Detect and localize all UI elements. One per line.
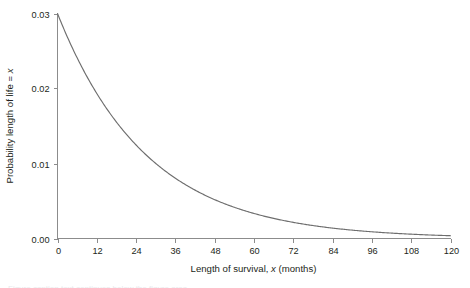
y-tick-label: 0.02 (32, 84, 50, 94)
x-tick-group: 01224364860728496108120 (56, 239, 459, 256)
x-tick-label: 96 (367, 246, 377, 256)
axes-group (58, 14, 451, 239)
x-tick-label: 12 (92, 246, 102, 256)
figure-container: 0.000.010.020.03 01224364860728496108120… (0, 0, 470, 288)
x-tick-label: 60 (249, 246, 259, 256)
probability-density-curve (58, 14, 451, 236)
x-tick-label: 84 (328, 246, 338, 256)
x-tick-label: 108 (404, 246, 419, 256)
x-tick-label: 0 (56, 246, 61, 256)
y-tick-label: 0.00 (32, 235, 50, 245)
cut-off-caption: Figure caption text continues below the … (8, 284, 198, 288)
y-tick-group: 0.000.010.020.03 (32, 10, 58, 245)
y-axis-title: Probability length of life = x (4, 67, 15, 183)
x-tick-label: 36 (170, 246, 180, 256)
x-tick-label: 72 (288, 246, 298, 256)
x-axis-title: Length of survival, x (months) (191, 263, 317, 274)
y-tick-label: 0.01 (32, 160, 50, 170)
x-tick-label: 24 (131, 246, 141, 256)
y-tick-label: 0.03 (32, 10, 50, 20)
x-tick-label: 48 (210, 246, 220, 256)
x-tick-label: 120 (444, 246, 459, 256)
survival-probability-chart: 0.000.010.020.03 01224364860728496108120… (0, 0, 470, 288)
